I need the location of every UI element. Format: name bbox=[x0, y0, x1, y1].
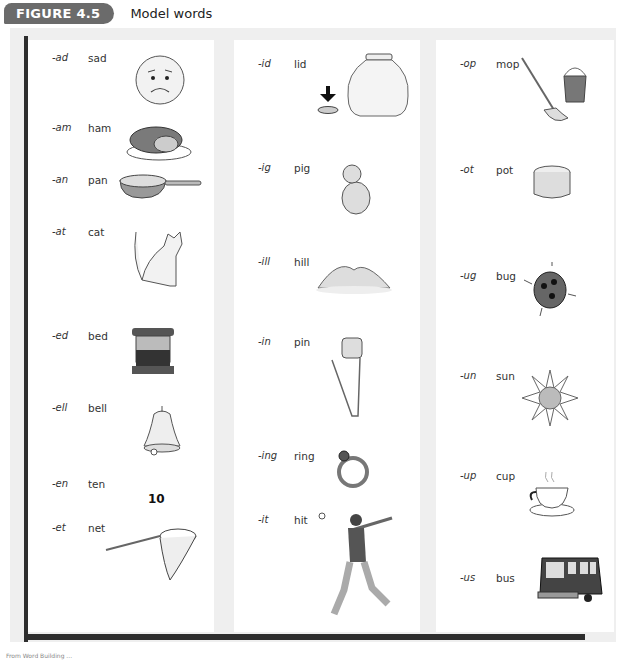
figure-badge: FIGURE 4.5 bbox=[4, 3, 114, 24]
word-label: sun bbox=[496, 370, 515, 382]
rime-label: -ed bbox=[52, 330, 68, 341]
sad-face-icon bbox=[134, 54, 186, 106]
rime-label: -ing bbox=[258, 450, 277, 461]
rime-label: -op bbox=[460, 58, 476, 69]
net-icon bbox=[104, 526, 200, 586]
word-label: bell bbox=[88, 402, 107, 414]
word-label: cup bbox=[496, 470, 515, 482]
rime-label: -ad bbox=[52, 52, 68, 63]
rime-label: -ig bbox=[258, 162, 271, 173]
word-label: sad bbox=[88, 52, 107, 64]
rime-label: -an bbox=[52, 174, 68, 185]
ring-icon bbox=[332, 448, 372, 490]
number-ten: 10 bbox=[148, 492, 165, 506]
frame-border-bottom bbox=[24, 634, 585, 640]
rime-label: -in bbox=[258, 336, 271, 347]
cat-icon bbox=[132, 230, 188, 290]
bed-icon bbox=[128, 324, 178, 380]
word-label: ring bbox=[294, 450, 315, 462]
word-label: cat bbox=[88, 226, 104, 238]
rime-label: -ot bbox=[460, 164, 474, 175]
word-label: lid bbox=[294, 58, 307, 70]
word-label: net bbox=[88, 522, 105, 534]
pig-icon bbox=[334, 162, 378, 218]
source-caption: From Word Building ... bbox=[6, 652, 72, 659]
safety-pin-icon bbox=[328, 336, 368, 420]
mop-icon bbox=[518, 56, 590, 128]
rime-label: -up bbox=[460, 470, 476, 481]
rime-label: -id bbox=[258, 58, 271, 69]
rime-label: -ug bbox=[460, 270, 476, 281]
word-label: mop bbox=[496, 58, 519, 70]
word-column-2: -id lid -ig pig -ill hill -in pin bbox=[234, 40, 420, 632]
word-label: pan bbox=[88, 174, 108, 186]
jar-lid-icon bbox=[310, 52, 410, 122]
rime-label: -am bbox=[52, 122, 71, 133]
rime-label: -ill bbox=[258, 256, 270, 267]
rime-label: -en bbox=[52, 478, 68, 489]
rime-label: -un bbox=[460, 370, 476, 381]
word-label: hill bbox=[294, 256, 309, 268]
rime-label: -et bbox=[52, 522, 66, 533]
word-label: bus bbox=[496, 572, 515, 584]
word-label: bed bbox=[88, 330, 108, 342]
bus-icon bbox=[536, 554, 606, 604]
teacup-icon bbox=[526, 470, 576, 520]
figure-header: FIGURE 4.5 Model words bbox=[0, 0, 212, 26]
rime-label: -at bbox=[52, 226, 66, 237]
word-label: pig bbox=[294, 162, 310, 174]
word-column-1: -ad sad -am ham -an pan -at cat bbox=[28, 40, 214, 632]
figure-title: Model words bbox=[130, 6, 212, 21]
rime-label: -it bbox=[258, 514, 268, 525]
word-column-3: -op mop -ot pot -ug bug -un sun bbox=[436, 40, 614, 632]
pot-icon bbox=[530, 162, 574, 202]
bell-icon bbox=[140, 404, 184, 458]
word-label: pin bbox=[294, 336, 310, 348]
word-label: ten bbox=[88, 478, 105, 490]
frame-border-left bbox=[24, 36, 28, 642]
word-label: ham bbox=[88, 122, 111, 134]
sun-icon bbox=[522, 370, 578, 426]
word-label: hit bbox=[294, 514, 308, 526]
ham-icon bbox=[124, 118, 194, 162]
hill-icon bbox=[314, 256, 394, 296]
rime-label: -ell bbox=[52, 402, 67, 413]
ladybug-icon bbox=[522, 262, 578, 318]
batter-icon bbox=[316, 510, 404, 620]
word-label: bug bbox=[496, 270, 516, 282]
word-label: pot bbox=[496, 164, 513, 176]
rime-label: -us bbox=[460, 572, 475, 583]
frying-pan-icon bbox=[118, 172, 204, 202]
